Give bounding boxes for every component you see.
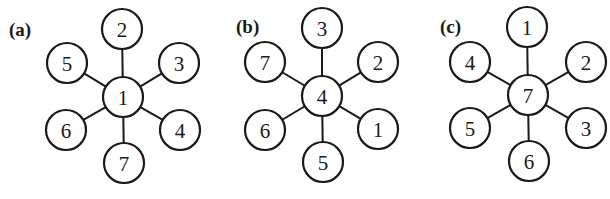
node-label: 5 (318, 151, 329, 175)
node-label: 2 (581, 51, 592, 75)
leaf-node-top: 1 (507, 7, 547, 47)
panel-label: (b) (236, 16, 259, 38)
leaf-node-upper-left: 5 (47, 43, 87, 83)
node-label: 6 (524, 150, 535, 174)
star-graph-figure: (a)1234765(b)4321567(c)7123654 (0, 0, 610, 199)
node-label: 1 (373, 118, 384, 142)
leaf-node-lower-right: 3 (566, 108, 606, 148)
edge-7-5 (487, 105, 510, 118)
edge-4-1 (339, 106, 361, 119)
node-label: 1 (118, 86, 129, 110)
leaf-node-upper-right: 2 (358, 42, 398, 82)
center-node: 1 (103, 77, 143, 117)
node-label: 6 (260, 119, 271, 143)
node-label: 3 (581, 117, 592, 141)
center-node: 7 (508, 75, 548, 115)
leaf-node-bottom: 6 (509, 141, 549, 181)
edge-1-4 (140, 107, 162, 120)
panel-c: (c)7123654 (440, 7, 606, 181)
leaf-node-lower-left: 5 (450, 108, 490, 148)
leaf-node-upper-left: 4 (450, 42, 490, 82)
edge-7-3 (545, 105, 568, 118)
node-label: 4 (175, 119, 186, 143)
leaf-node-lower-right: 1 (358, 109, 398, 149)
leaf-node-bottom: 5 (303, 142, 343, 182)
leaf-node-upper-left: 7 (245, 42, 285, 82)
panel-label: (a) (9, 19, 31, 41)
panels-container: (a)1234765(b)4321567(c)7123654 (9, 7, 606, 183)
node-label: 4 (317, 85, 328, 109)
node-label: 7 (523, 84, 534, 108)
leaf-node-lower-right: 4 (160, 110, 200, 150)
node-label: 7 (119, 152, 130, 176)
node-label: 3 (317, 17, 328, 41)
node-label: 2 (117, 18, 128, 42)
node-label: 5 (62, 52, 73, 76)
edge-1-3 (140, 73, 162, 86)
node-label: 7 (260, 51, 271, 75)
edge-4-6 (282, 106, 305, 120)
node-label: 1 (522, 16, 533, 40)
edge-7-4 (487, 72, 510, 85)
leaf-node-lower-left: 6 (46, 110, 86, 150)
leaf-node-upper-right: 3 (159, 43, 199, 83)
panel-label: (c) (440, 16, 461, 38)
leaf-node-top: 3 (302, 8, 342, 48)
edge-1-6 (83, 107, 105, 120)
edge-4-2 (339, 72, 361, 85)
leaf-node-upper-right: 2 (566, 42, 606, 82)
edge-7-2 (545, 72, 568, 85)
leaf-node-lower-left: 6 (245, 110, 285, 150)
panel-b: (b)4321567 (236, 8, 398, 182)
edge-4-7 (282, 72, 305, 86)
leaf-node-bottom: 7 (104, 143, 144, 183)
node-label: 6 (61, 119, 72, 143)
center-node: 4 (302, 76, 342, 116)
node-label: 3 (174, 52, 185, 76)
edge-1-5 (84, 73, 106, 86)
leaf-node-top: 2 (102, 9, 142, 49)
panel-a: (a)1234765 (9, 9, 200, 183)
node-label: 2 (373, 51, 384, 75)
node-label: 5 (465, 117, 476, 141)
node-label: 4 (465, 51, 476, 75)
